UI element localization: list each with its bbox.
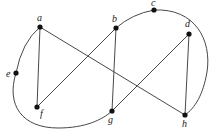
node-g	[109, 108, 114, 113]
label-e: e	[6, 68, 11, 79]
node-d	[186, 31, 191, 36]
node-c	[151, 7, 156, 12]
label-h: h	[182, 118, 187, 129]
node-b	[113, 25, 118, 30]
curve-b-c	[116, 10, 154, 28]
label-b: b	[112, 13, 117, 24]
node-h	[182, 112, 187, 117]
curve-a-e	[16, 27, 40, 73]
label-f: f	[40, 108, 44, 119]
label-g: g	[108, 114, 113, 125]
edge-d-h	[185, 34, 189, 115]
graph-diagram: a b c d e f g h	[0, 0, 210, 130]
edge-b-g	[112, 28, 116, 111]
edge-a-f	[37, 27, 40, 107]
label-c: c	[151, 0, 156, 8]
label-a: a	[37, 12, 42, 23]
node-e	[13, 70, 18, 75]
edge-d-g	[112, 34, 189, 111]
node-a	[37, 24, 42, 29]
edge-b-f	[37, 28, 116, 107]
curve-c-h	[154, 10, 208, 115]
node-f	[34, 104, 39, 109]
